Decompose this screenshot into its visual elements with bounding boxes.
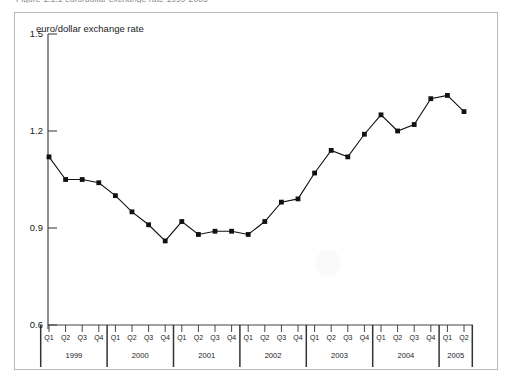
x-quarter-label: Q2 bbox=[190, 334, 207, 341]
y-tick-label: 0.9 bbox=[21, 222, 43, 233]
x-quarter-label: Q1 bbox=[240, 334, 257, 341]
x-quarter-label: Q2 bbox=[323, 334, 340, 341]
y-tick-label: 1.5 bbox=[21, 28, 43, 39]
x-quarter-label: Q1 bbox=[306, 334, 323, 341]
x-quarter-label: Q3 bbox=[207, 334, 224, 341]
x-quarter-label: Q1 bbox=[107, 334, 124, 341]
x-quarter-label: Q1 bbox=[373, 334, 390, 341]
x-quarter-label: Q1 bbox=[173, 334, 190, 341]
x-year-label: 2004 bbox=[392, 351, 420, 360]
x-quarter-label: Q2 bbox=[456, 334, 473, 341]
x-quarter-label: Q2 bbox=[124, 334, 141, 341]
x-quarter-label: Q2 bbox=[256, 334, 273, 341]
data-point-markers bbox=[47, 93, 467, 243]
x-year-label: 1999 bbox=[60, 351, 88, 360]
x-quarter-label: Q3 bbox=[339, 334, 356, 341]
x-quarter-label: Q3 bbox=[406, 334, 423, 341]
figure-caption: Figure 1.1.1 euro/dollar exchange rate 1… bbox=[16, 0, 208, 3]
data-line bbox=[49, 95, 464, 241]
x-quarter-label: Q1 bbox=[41, 334, 58, 341]
x-quarter-label: Q4 bbox=[157, 334, 174, 341]
x-year-label: 2000 bbox=[126, 351, 154, 360]
tick-group bbox=[41, 34, 473, 367]
x-quarter-label: Q4 bbox=[90, 334, 107, 341]
exchange-rate-line-chart bbox=[15, 13, 499, 371]
x-quarter-label: Q2 bbox=[57, 334, 74, 341]
x-quarter-label: Q4 bbox=[223, 334, 240, 341]
x-year-label: 2005 bbox=[442, 351, 470, 360]
x-quarter-label: Q3 bbox=[74, 334, 91, 341]
chart-plot-area: euro/dollar exchange rate 0.60.91.21.5 Q… bbox=[15, 13, 499, 371]
y-tick-label: 1.2 bbox=[21, 125, 43, 136]
axis-group bbox=[48, 34, 473, 329]
x-quarter-label: Q4 bbox=[422, 334, 439, 341]
x-year-label: 2002 bbox=[259, 351, 287, 360]
x-quarter-label: Q2 bbox=[389, 334, 406, 341]
x-quarter-label: Q3 bbox=[140, 334, 157, 341]
figure-root: Figure 1.1.1 euro/dollar exchange rate 1… bbox=[0, 0, 519, 377]
x-year-label: 2001 bbox=[193, 351, 221, 360]
x-year-label: 2003 bbox=[326, 351, 354, 360]
chart-frame: euro/dollar exchange rate 0.60.91.21.5 Q… bbox=[14, 12, 498, 370]
y-tick-label: 0.6 bbox=[21, 319, 43, 330]
x-quarter-label: Q3 bbox=[273, 334, 290, 341]
x-quarter-label: Q1 bbox=[439, 334, 456, 341]
x-quarter-label: Q4 bbox=[290, 334, 307, 341]
x-quarter-label: Q4 bbox=[356, 334, 373, 341]
